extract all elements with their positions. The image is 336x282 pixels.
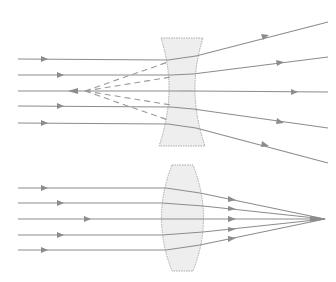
arrow-right-icon [228,206,236,211]
outgoing-ray-1 [196,22,328,56]
virtual-ray-2 [85,77,171,91]
arrow-right-icon [291,89,298,95]
arrow-right-icon [57,103,64,109]
arrow-right-icon [41,185,48,191]
arrow-right-icon [228,196,236,202]
virtual-ray-5 [85,91,168,120]
outgoing-ray-1 [200,193,325,219]
optics-diagram [0,0,336,282]
convex-lens-group [18,165,326,271]
arrow-right-icon [41,56,48,62]
concave-lens [159,38,205,146]
outgoing-ray-5 [200,219,325,245]
arrow-right-icon [228,227,236,232]
arrow-right-icon [228,236,236,242]
outgoing-ray-4 [193,109,328,128]
arrow-right-icon [261,141,269,147]
incoming-ray-4 [18,106,171,107]
virtual-ray-1 [85,62,168,91]
arrow-right-icon [228,216,236,222]
arrow-right-icon [57,200,64,206]
arrow-right-icon [57,72,64,78]
incoming-ray-1 [18,59,168,60]
convex-lens [162,165,204,271]
virtual-ray-4 [85,91,171,105]
arrow-left-icon [68,88,78,94]
outgoing-ray-3 [192,91,328,92]
arrow-right-icon [276,118,284,124]
arrow-right-icon [41,247,48,253]
incoming-ray-5 [18,123,168,124]
outgoing-ray-2 [193,57,328,74]
concave-lens-group [18,22,328,163]
lens-ray-diagram [0,0,336,282]
outgoing-ray-4 [203,219,325,232]
outgoing-ray-2 [203,206,325,219]
arrow-right-icon [41,120,48,126]
focal-point-marker [310,216,326,222]
arrow-right-icon [57,232,64,238]
arrow-right-icon [84,216,91,222]
